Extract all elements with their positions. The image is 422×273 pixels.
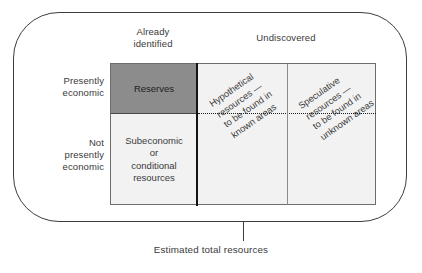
row-label-not-presently-economic: Not presently economic — [20, 137, 104, 174]
resource-classification-figure: Already identified Undiscovered Presentl… — [0, 0, 422, 273]
cell-reserves: Reserves — [111, 64, 197, 114]
cell-subeconomic-resources: Subeconomic or conditional resources — [111, 114, 197, 205]
figure-caption: Estimated total resources — [0, 243, 422, 256]
row-label-presently-economic: Presently economic — [20, 75, 104, 99]
total-resources-tick — [243, 222, 244, 241]
cell-hypothetical-label: Hypothetical resources — to be found in … — [207, 68, 282, 142]
divider-hypothetical-speculative — [287, 64, 288, 205]
column-header-already-identified: Already identified — [110, 26, 196, 50]
cell-speculative-resources: Speculative resources — to be found in u… — [288, 64, 376, 205]
column-header-undiscovered: Undiscovered — [196, 32, 376, 44]
divider-identified-undiscovered — [196, 63, 198, 206]
cell-subeconomic-label: Subeconomic or conditional resources — [125, 135, 183, 185]
cell-speculative-label: Speculative resources — to be found in u… — [296, 66, 376, 143]
resource-matrix: Reserves Subeconomic or conditional reso… — [110, 63, 376, 205]
cell-hypothetical-resources: Hypothetical resources — to be found in … — [198, 64, 287, 205]
cell-reserves-label: Reserves — [134, 83, 174, 95]
